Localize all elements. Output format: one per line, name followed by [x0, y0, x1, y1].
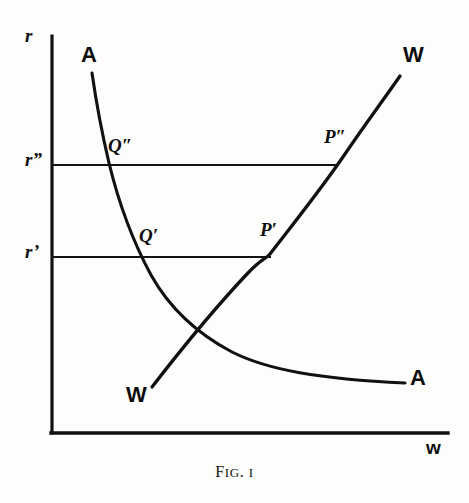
figure-container: r w r” r’ A W W A Q″ P″ Q′ P′ FIG. I	[0, 0, 469, 503]
point-label-q-prime: Q′	[139, 226, 158, 245]
y-axis-label: r	[25, 26, 32, 45]
curve-label-w-bottom: W	[126, 384, 147, 406]
caption-f: F	[215, 463, 225, 480]
curve-label-a-top: A	[81, 44, 97, 66]
caption-number: I	[249, 465, 254, 480]
figure-drawing	[0, 0, 469, 503]
point-label-q-double-prime: Q″	[108, 136, 132, 155]
tick-label-r-double-prime: r”	[25, 150, 42, 169]
curve-label-a-bottom: A	[410, 367, 426, 389]
curve-label-w-top: W	[403, 44, 424, 66]
caption-sep: .	[240, 463, 249, 480]
figure-caption: FIG. I	[0, 463, 469, 481]
caption-ig: IG	[225, 465, 240, 480]
point-label-p-double-prime: P″	[324, 127, 346, 146]
x-axis-label: w	[426, 438, 441, 457]
point-label-p-prime: P′	[260, 220, 277, 239]
tick-label-r-prime: r’	[25, 242, 39, 261]
